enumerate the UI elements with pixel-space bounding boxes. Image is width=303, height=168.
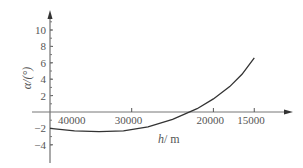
y-tick-label: 8 (41, 40, 47, 52)
y-tick-label: 6 (41, 57, 47, 69)
chart: −4−2246810 40000300002000015000 α/(°) h/… (0, 0, 303, 168)
chart-svg: −4−2246810 40000300002000015000 α/(°) h/… (0, 0, 303, 168)
x-tick-label: 30000 (115, 114, 143, 126)
x-tick-label: 20000 (196, 114, 224, 126)
y-tick-label: −2 (34, 122, 46, 134)
x-axis-arrow-icon (284, 110, 293, 115)
x-tick-label: 15000 (237, 114, 265, 126)
y-tick-label: 10 (35, 24, 47, 36)
y-tick-label: 4 (41, 73, 47, 85)
y-tick-label: −4 (34, 139, 46, 151)
x-axis-label: h/ m (158, 132, 180, 146)
y-axis-label: α/(°) (20, 67, 34, 89)
x-tick-label: 40000 (58, 114, 86, 126)
y-tick-label: 2 (41, 90, 47, 102)
y-axis-arrow-icon (48, 10, 53, 19)
